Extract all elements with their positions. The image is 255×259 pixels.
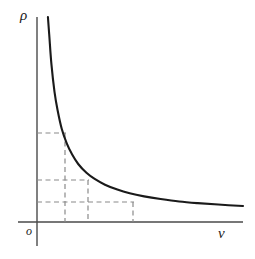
y-axis-label: ρ [20,8,27,23]
x-axis-label: ν [218,226,225,241]
figure-container: ρ ν o [0,0,255,259]
density-curve [48,17,243,206]
origin-label: o [26,225,32,237]
plot-canvas [0,0,255,259]
